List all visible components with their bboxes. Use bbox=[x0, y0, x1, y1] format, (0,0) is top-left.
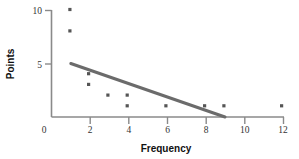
data-point bbox=[87, 72, 90, 75]
data-point bbox=[106, 94, 109, 97]
plot-area: 10 5 0 2 4 6 8 10 12 Frequency Points bbox=[0, 0, 299, 159]
scatter-chart: 10 5 0 2 4 6 8 10 12 Frequency Points bbox=[0, 0, 299, 159]
x-tick-label-8: 8 bbox=[204, 125, 209, 135]
y-tick-label-10: 10 bbox=[33, 6, 43, 16]
x-tick-marks bbox=[90, 117, 283, 124]
trend-line bbox=[71, 64, 225, 118]
x-tick-label-12: 12 bbox=[278, 125, 288, 135]
y-tick-label-0: 0 bbox=[42, 125, 47, 135]
data-point-markers bbox=[68, 8, 283, 107]
y-axis-title: Points bbox=[5, 48, 16, 79]
data-point bbox=[87, 83, 90, 86]
x-tick-label-2: 2 bbox=[88, 125, 93, 135]
y-tick-marks bbox=[45, 11, 52, 65]
data-point bbox=[68, 29, 71, 32]
x-tick-label-4: 4 bbox=[126, 125, 131, 135]
data-point bbox=[164, 104, 167, 107]
data-point bbox=[222, 104, 225, 107]
x-axis-title: Frequency bbox=[141, 143, 192, 154]
x-tick-label-10: 10 bbox=[240, 125, 250, 135]
data-point bbox=[203, 104, 206, 107]
data-point bbox=[280, 104, 283, 107]
data-point bbox=[126, 94, 129, 97]
x-tick-label-6: 6 bbox=[165, 125, 170, 135]
data-point bbox=[68, 8, 71, 11]
data-point bbox=[126, 104, 129, 107]
y-tick-label-5: 5 bbox=[37, 60, 42, 70]
